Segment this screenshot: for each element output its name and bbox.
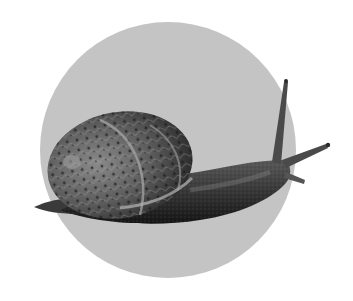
snail-illustration: Grayscale photo of a snail crawling righ… bbox=[0, 0, 353, 301]
eye-tip-right bbox=[326, 143, 330, 147]
shell-apex-highlight bbox=[63, 155, 81, 169]
eye-tip-upper bbox=[284, 79, 288, 83]
snail-svg bbox=[0, 0, 353, 301]
